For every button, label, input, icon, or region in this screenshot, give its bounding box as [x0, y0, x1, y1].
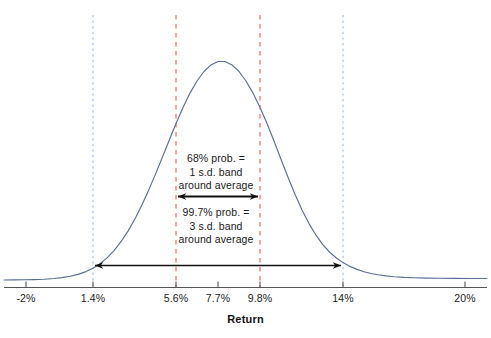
normal-distribution-chart: 68% prob. = 1 s.d. band around average 9…	[0, 0, 491, 338]
annotation-one-sd-line3: around average	[146, 179, 286, 193]
annotation-one-sd-line2: 1 s.d. band	[146, 166, 286, 180]
annotation-three-sd-line1: 99.7% prob. =	[146, 206, 286, 220]
annotation-one-sd-band: 68% prob. = 1 s.d. band around average	[146, 152, 286, 193]
annotation-three-sd-line3: around average	[146, 233, 286, 247]
x-tick-label-7-7: 7.7%	[194, 292, 242, 304]
x-tick-label-minus2: -2%	[2, 292, 50, 304]
x-tick-label-14: 14%	[319, 292, 367, 304]
annotation-three-sd-line2: 3 s.d. band	[146, 220, 286, 234]
x-tick-label-5-6: 5.6%	[152, 292, 200, 304]
x-tick-label-9-8: 9.8%	[236, 292, 284, 304]
x-tick-label-1-4: 1.4%	[69, 292, 117, 304]
annotation-one-sd-line1: 68% prob. =	[146, 152, 286, 166]
x-tick-label-20: 20%	[441, 292, 489, 304]
x-axis-title: Return	[0, 313, 491, 325]
annotation-three-sd-band: 99.7% prob. = 3 s.d. band around average	[146, 206, 286, 247]
